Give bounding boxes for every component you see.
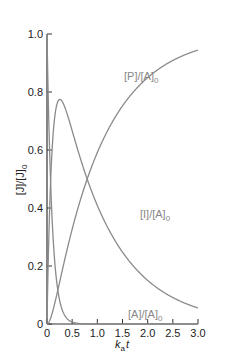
curve-label-a: [A]/[A]0 bbox=[128, 308, 163, 323]
x-tick-label: 0 bbox=[44, 327, 50, 339]
y-tick-label: 0.2 bbox=[28, 260, 43, 272]
x-tick-label: 1.0 bbox=[90, 327, 105, 339]
curve-p bbox=[47, 50, 198, 324]
y-axis-title: [J]/[J]0 bbox=[14, 164, 29, 195]
y-tick-label: 0.8 bbox=[28, 86, 43, 98]
axes: 00.51.01.52.02.53.000.20.40.60.81.0 bbox=[28, 28, 206, 339]
x-tick-label: 3.0 bbox=[190, 327, 205, 339]
curve-i bbox=[47, 99, 198, 324]
curve-a bbox=[47, 34, 198, 324]
x-axis-title: kat bbox=[115, 338, 130, 353]
y-tick-label: 0 bbox=[37, 318, 43, 330]
x-tick-label: 2.0 bbox=[140, 327, 155, 339]
y-tick-label: 1.0 bbox=[28, 28, 43, 40]
y-tick-label: 0.6 bbox=[28, 144, 43, 156]
kinetics-chart: 00.51.01.52.02.53.000.20.40.60.81.0 [A]/… bbox=[0, 0, 234, 364]
curves bbox=[47, 34, 198, 324]
x-tick-label: 0.5 bbox=[65, 327, 80, 339]
curve-labels: [A]/[A]0[I]/[A]0[P]/[A]0 bbox=[124, 70, 171, 323]
x-tick-label: 2.5 bbox=[165, 327, 180, 339]
y-tick-label: 0.4 bbox=[28, 202, 43, 214]
curve-label-i: [I]/[A]0 bbox=[140, 208, 171, 223]
